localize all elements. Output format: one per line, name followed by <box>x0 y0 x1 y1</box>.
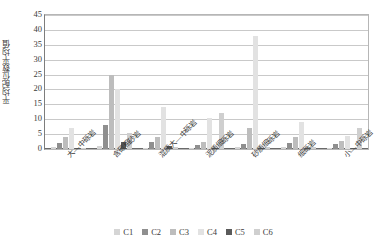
legend-label: C6 <box>263 228 273 236</box>
legend-swatch <box>142 229 148 235</box>
legend-item[interactable]: C5 <box>226 228 245 236</box>
bar-groups <box>45 15 368 149</box>
bar-group <box>230 15 276 149</box>
bar-group <box>137 15 183 149</box>
bar <box>287 143 292 149</box>
bar <box>333 144 338 149</box>
bar <box>293 137 298 149</box>
y-axis-tick-labels: 454035302520151050 <box>0 14 42 150</box>
y-tick-label: 10 <box>6 114 42 122</box>
bar <box>189 148 194 149</box>
legend-swatch <box>114 229 120 235</box>
legend-label: C2 <box>151 228 161 236</box>
bar <box>149 142 154 149</box>
bar <box>51 147 56 149</box>
legend-swatch <box>254 229 260 235</box>
bar-group <box>322 15 368 149</box>
legend-label: C5 <box>235 228 245 236</box>
bar <box>103 125 108 149</box>
legend-swatch <box>170 229 176 235</box>
bar <box>253 36 258 149</box>
y-tick-label: 15 <box>6 99 42 107</box>
x-axis-tick-labels: 大—中砾岩含碳粗砂岩混质大—中砾岩泥质细砾岩砂质细砾岩细砾岩小—中砾岩 <box>45 152 368 208</box>
y-tick-label: 25 <box>6 70 42 78</box>
bar <box>327 148 332 149</box>
bar <box>115 89 120 149</box>
y-tick-label: 40 <box>6 25 42 33</box>
bar <box>143 148 148 149</box>
legend-item[interactable]: C1 <box>114 228 133 236</box>
legend-item[interactable]: C6 <box>254 228 273 236</box>
y-tick-label: 45 <box>6 10 42 18</box>
bar <box>235 147 240 149</box>
bar <box>195 145 200 149</box>
legend-swatch <box>198 229 204 235</box>
bar <box>109 75 114 149</box>
legend-label: C4 <box>207 228 217 236</box>
y-tick-label: 0 <box>6 144 42 152</box>
y-tick-label: 20 <box>6 84 42 92</box>
legend-label: C1 <box>123 228 133 236</box>
bar-group <box>91 15 137 149</box>
bar <box>281 147 286 149</box>
legend-item[interactable]: C2 <box>142 228 161 236</box>
legend-label: C3 <box>179 228 189 236</box>
bar <box>247 128 252 149</box>
bar-group <box>45 15 91 149</box>
chart-legend: C1C2C3C4C5C6 <box>0 228 387 236</box>
y-tick-label: 30 <box>6 55 42 63</box>
y-tick-label: 35 <box>6 40 42 48</box>
legend-swatch <box>226 229 232 235</box>
bar-group <box>276 15 322 149</box>
bar <box>241 144 246 149</box>
legend-item[interactable]: C4 <box>198 228 217 236</box>
y-tick-label: 5 <box>6 129 42 137</box>
bar-chart: 平均配位数平均值 454035302520151050 大—中砾岩含碳粗砂岩混质… <box>0 0 387 250</box>
bar <box>97 146 102 149</box>
bar <box>57 143 62 149</box>
legend-item[interactable]: C3 <box>170 228 189 236</box>
